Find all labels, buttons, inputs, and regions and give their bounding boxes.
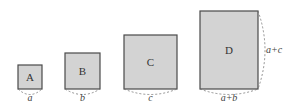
square-a-label: A: [26, 71, 34, 83]
squares-diagram: A a B b C c D a+b a+c: [0, 0, 293, 107]
square-c-label: C: [147, 56, 154, 68]
square-c: C c: [124, 35, 177, 103]
square-a-side-label: a: [28, 92, 33, 103]
square-d-bottom-label: a+b: [221, 92, 238, 103]
square-b-label: B: [79, 65, 86, 77]
square-c-side-label: c: [148, 92, 153, 103]
square-d-right-label: a+c: [266, 44, 283, 55]
square-b: B b: [65, 53, 100, 103]
square-d: D a+b a+c: [200, 11, 283, 103]
square-a: A a: [18, 65, 42, 103]
square-b-side-label: b: [80, 92, 85, 103]
square-d-label: D: [225, 44, 233, 56]
